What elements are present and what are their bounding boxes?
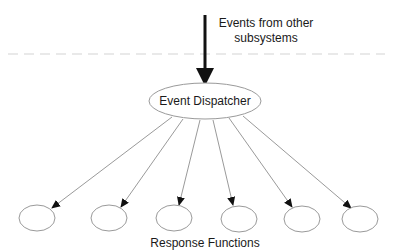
event-dispatcher-label: Event Dispatcher <box>159 94 250 108</box>
response-node-2 <box>91 205 127 231</box>
input-label-line2: subsystems <box>234 31 297 45</box>
input-label-line1: Events from other <box>219 16 314 30</box>
dispatch-arrows <box>52 116 351 208</box>
response-function-nodes <box>19 205 378 232</box>
response-node-3 <box>156 205 192 231</box>
response-functions-label: Response Functions <box>150 236 259 250</box>
response-node-4 <box>221 206 257 232</box>
response-node-5 <box>284 206 320 232</box>
event-dispatch-diagram: Events from other subsystems Event Dispa… <box>0 0 393 251</box>
response-node-1 <box>19 205 55 231</box>
incoming-events-arrow <box>196 15 214 86</box>
response-node-6 <box>342 206 378 232</box>
